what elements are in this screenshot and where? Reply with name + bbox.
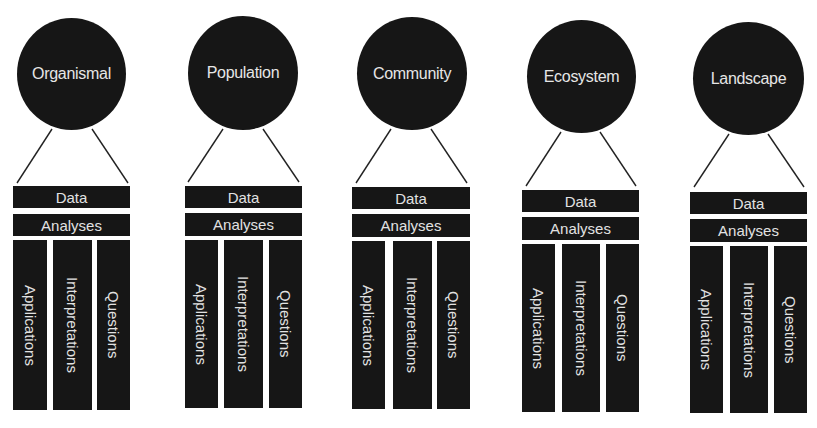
- interpretations-label: Interpretations: [742, 282, 757, 378]
- analyses-label: Analyses: [718, 223, 779, 238]
- questions-column: Questions: [774, 246, 807, 413]
- questions-label: Questions: [783, 296, 798, 364]
- level-title: Landscape: [711, 70, 787, 88]
- interpretations-column: Interpretations: [730, 246, 768, 413]
- applications-column: Applications: [690, 246, 723, 413]
- analyses-bar: Analyses: [690, 219, 807, 242]
- applications-label: Applications: [699, 289, 714, 370]
- level-circle: Landscape: [693, 22, 804, 135]
- level-group-landscape: Landscape Data Analyses Applications Int…: [0, 0, 817, 428]
- data-bar: Data: [690, 192, 807, 214]
- data-label: Data: [733, 196, 765, 211]
